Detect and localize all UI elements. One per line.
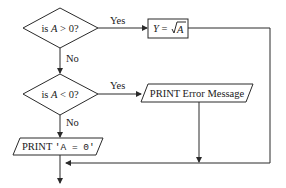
decision-a-gt-0-label: is A > 0? bbox=[41, 23, 78, 34]
output-a-equals-0-label: PRINT 'A = 0' bbox=[22, 141, 95, 153]
no-label-1: No bbox=[66, 53, 79, 64]
process-sqrt-label: Y = bbox=[153, 23, 167, 34]
output-error-message-label: PRINT Error Message bbox=[150, 88, 245, 99]
yes-label-2: Yes bbox=[110, 80, 125, 91]
no-label-2: No bbox=[66, 117, 79, 128]
flowchart: is A > 0? Yes Y = A No is A < 0? Yes PRI… bbox=[0, 0, 286, 188]
sqrt-radicand: A bbox=[176, 24, 184, 35]
decision-a-lt-0-label: is A < 0? bbox=[41, 89, 78, 100]
yes-label-1: Yes bbox=[110, 15, 125, 26]
